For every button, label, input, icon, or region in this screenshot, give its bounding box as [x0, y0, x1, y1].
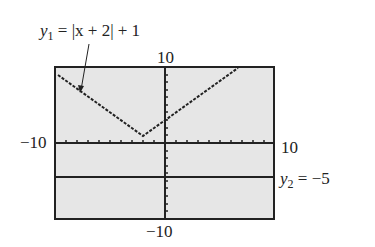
- ymax-label: 10: [157, 49, 174, 66]
- xmax-label: 10: [281, 139, 298, 156]
- xmin-label: −10: [20, 134, 47, 151]
- equation-y2-label: y2 = −5: [280, 170, 330, 190]
- equation-y1-label: y1 = |x + 2| + 1: [40, 22, 140, 42]
- ymin-label: −10: [146, 223, 173, 240]
